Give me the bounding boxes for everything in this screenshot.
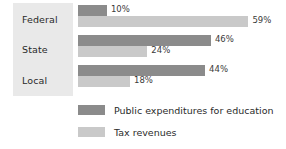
bar-row-tax-revenues: 18% [78, 76, 286, 87]
bar-group-local: 44% 18% [78, 65, 286, 88]
bar-value-expenditures-federal: 10% [111, 4, 130, 15]
plot-area: 10% 59% 46% 24% 44% [78, 0, 286, 96]
bar-row-expenditures: 44% [78, 65, 286, 76]
bar-expenditures-state [78, 35, 211, 46]
bar-row-tax-revenues: 24% [78, 46, 286, 57]
dark-swatch-icon [78, 105, 105, 115]
category-label-federal: Federal [22, 14, 58, 25]
legend-label-expenditures: Public expenditures for education [114, 104, 273, 117]
bar-group-state: 46% 24% [78, 35, 286, 58]
legend-label-tax-revenues: Tax revenues [114, 126, 177, 139]
bar-row-expenditures: 46% [78, 35, 286, 46]
bar-value-tax-revenues-federal: 59% [252, 15, 271, 26]
bar-row-tax-revenues: 59% [78, 16, 286, 27]
bar-value-tax-revenues-local: 18% [134, 75, 153, 86]
category-label-panel: Federal State Local [13, 3, 73, 96]
category-label-local: Local [22, 75, 47, 86]
bar-value-tax-revenues-state: 24% [151, 45, 170, 56]
bar-group-federal: 10% 59% [78, 5, 286, 28]
bar-expenditures-federal [78, 5, 107, 16]
bar-value-expenditures-state: 46% [215, 34, 234, 45]
light-swatch-icon [78, 127, 105, 137]
bar-tax-revenues-federal [78, 16, 248, 27]
bar-value-expenditures-local: 44% [209, 64, 228, 75]
bar-tax-revenues-local [78, 76, 130, 87]
bar-tax-revenues-state [78, 46, 147, 57]
bar-chart: Federal State Local 10% 59% 46% 24% [0, 0, 286, 149]
category-label-state: State [22, 44, 48, 55]
